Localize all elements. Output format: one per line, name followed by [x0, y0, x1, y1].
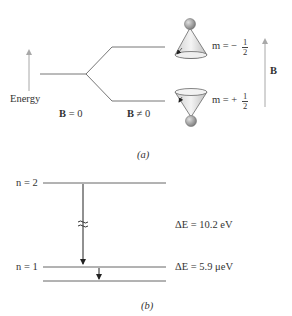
- fraction-denominator: 2: [243, 48, 247, 57]
- transition-arrow-large: [78, 184, 88, 264]
- b-nonzero-label: B ≠ 0: [127, 109, 150, 120]
- b-zero-label: B = 0: [59, 109, 82, 120]
- upper-state-prefix: m = −: [212, 40, 237, 51]
- lower-state-label: m = + 12: [212, 92, 248, 110]
- upper-state-fraction: 12: [242, 38, 248, 56]
- lower-spin-cone-icon: [175, 89, 207, 127]
- level-n2-label: n = 2: [16, 178, 38, 189]
- caption-a: (a): [137, 150, 149, 161]
- fraction-denominator: 2: [243, 102, 247, 111]
- upper-state-label: m = − 12: [212, 38, 248, 56]
- energy-level-lines: [43, 183, 166, 281]
- b-nonzero-value: ≠ 0: [134, 108, 150, 119]
- delta-e-large-label: ΔE = 10.2 eV: [175, 220, 233, 231]
- b-nonzero-symbol: B: [127, 108, 134, 119]
- b-zero-symbol: B: [59, 108, 66, 119]
- lower-state-fraction: 12: [242, 92, 248, 110]
- energy-label: Energy: [10, 94, 40, 105]
- b-zero-value: = 0: [66, 108, 82, 119]
- delta-e-small-label: ΔE = 5.9 μeV: [175, 262, 233, 273]
- lower-state-prefix: m = +: [212, 94, 237, 105]
- zeeman-split-lines: [40, 47, 165, 101]
- upper-spin-cone-icon: [175, 19, 207, 59]
- caption-b: (b): [141, 301, 153, 312]
- level-n1-label: n = 1: [16, 262, 38, 273]
- magnetic-field-label: B: [270, 66, 277, 77]
